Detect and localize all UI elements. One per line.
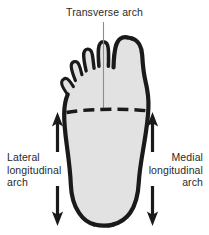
label-medial-line-1: Medial [149, 151, 203, 164]
label-medial-line-3: arch [149, 176, 203, 189]
foot-arches-diagram [0, 0, 209, 235]
foot-border-heel [94, 225, 113, 226]
label-transverse-arch: Transverse arch [0, 6, 209, 19]
label-lateral-line-2: longitudinal [7, 164, 61, 177]
label-lateral-longitudinal-arch: Lateral longitudinal arch [7, 151, 61, 189]
label-medial-longitudinal-arch: Medial longitudinal arch [149, 151, 203, 189]
label-lateral-line-1: Lateral [7, 151, 61, 164]
label-medial-line-2: longitudinal [149, 164, 203, 177]
label-lateral-line-3: arch [7, 176, 61, 189]
label-transverse-arch-line-1: Transverse arch [0, 6, 209, 19]
